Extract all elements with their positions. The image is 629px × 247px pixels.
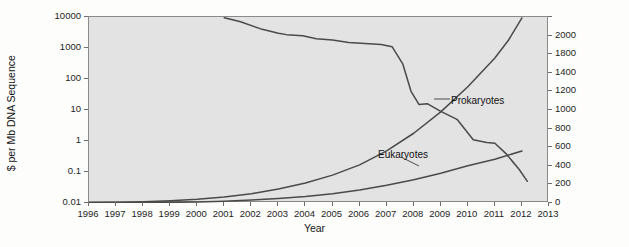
x-axis-tick-label: 1996	[73, 209, 103, 219]
x-axis-tick-label: 2013	[533, 209, 563, 219]
plot-svg	[89, 17, 549, 203]
x-axis-tick	[277, 202, 278, 206]
x-axis-title: Year	[0, 223, 629, 234]
y-axis-right-tick	[548, 128, 552, 129]
y-axis-right-tick-label: 200	[555, 178, 571, 188]
x-axis-tick-label: 2001	[208, 209, 238, 219]
y-axis-left-tick	[84, 140, 88, 141]
x-axis-tick-label: 1999	[154, 209, 184, 219]
x-axis-tick-label: 2012	[506, 209, 536, 219]
y-axis-right-tick-label: 1400	[555, 67, 576, 77]
y-axis-left-tick-label: 100	[26, 73, 81, 83]
y-axis-left-tick	[84, 16, 88, 17]
y-axis-left-tick	[84, 171, 88, 172]
y-axis-right-tick	[548, 35, 552, 36]
y-axis-left-tick-label: 0.1	[26, 166, 81, 176]
x-axis-tick	[169, 202, 170, 206]
y-axis-left-tick-label: 10000	[26, 11, 81, 21]
x-axis-tick-label: 1997	[100, 209, 130, 219]
x-axis-tick	[521, 202, 522, 206]
y-axis-right-tick	[548, 183, 552, 184]
y-axis-right-tick	[548, 53, 552, 54]
x-axis-tick-label: 2009	[425, 209, 455, 219]
x-axis-tick	[548, 202, 549, 206]
x-axis-tick-label: 2007	[371, 209, 401, 219]
y-axis-left-tick-label: 10	[26, 104, 81, 114]
x-axis-tick-label: 2000	[181, 209, 211, 219]
x-axis-tick-label: 2003	[262, 209, 292, 219]
y-axis-left-tick-label: 1	[26, 135, 81, 145]
x-axis-tick	[304, 202, 305, 206]
x-axis-tick	[142, 202, 143, 206]
x-axis-tick-label: 2010	[452, 209, 482, 219]
y-axis-right-tick-label: 800	[555, 123, 571, 133]
x-axis-tick-label: 2002	[235, 209, 265, 219]
y-axis-right-tick-label: 400	[555, 160, 571, 170]
y-axis-right-tick-label: 600	[555, 141, 571, 151]
x-axis-tick-label: 2011	[479, 209, 509, 219]
x-axis-tick	[440, 202, 441, 206]
y-axis-right-tick	[548, 90, 552, 91]
x-axis-tick	[88, 202, 89, 206]
y-axis-right-tick	[548, 146, 552, 147]
x-axis-tick	[115, 202, 116, 206]
x-axis-tick	[250, 202, 251, 206]
x-axis-tick	[196, 202, 197, 206]
x-axis-tick-label: 2005	[317, 209, 347, 219]
x-axis-tick-label: 2004	[289, 209, 319, 219]
series-annotation-eukaryotes: Eukaryotes	[378, 150, 428, 160]
y-axis-left-tick	[84, 109, 88, 110]
y-axis-right-tick-label: 2000	[555, 30, 576, 40]
chart-figure: 0.010.1110100100010000 02004006008001000…	[0, 0, 629, 247]
y-axis-right-tick-label: 0	[555, 197, 560, 207]
y-axis-left-tick	[84, 78, 88, 79]
x-axis-tick-label: 1998	[127, 209, 157, 219]
series-layer	[89, 18, 527, 203]
x-axis-tick	[223, 202, 224, 206]
y-axis-left-title: $ per Mb DNA Sequence	[6, 38, 17, 188]
x-axis-tick-label: 2008	[398, 209, 428, 219]
y-axis-right-tick	[548, 16, 552, 17]
x-axis-tick	[386, 202, 387, 206]
y-axis-right-tick-label: 1200	[555, 85, 576, 95]
y-axis-left-tick	[84, 47, 88, 48]
y-axis-right-tick	[548, 165, 552, 166]
y-axis-right-tick-label: 1800	[555, 48, 576, 58]
y-axis-left-tick-label: 0.01	[26, 197, 81, 207]
x-axis-tick	[467, 202, 468, 206]
y-axis-left-tick-label: 1000	[26, 42, 81, 52]
x-axis-tick	[359, 202, 360, 206]
series-line-eukaryotes	[89, 151, 522, 203]
y-axis-right-tick	[548, 72, 552, 73]
series-line-prokaryotes	[89, 18, 522, 203]
plot-area	[88, 16, 548, 202]
x-axis-tick-label: 2006	[344, 209, 374, 219]
x-axis-tick	[494, 202, 495, 206]
x-axis-tick	[332, 202, 333, 206]
y-axis-right-tick-label: 1000	[555, 104, 576, 114]
x-axis-tick	[413, 202, 414, 206]
series-annotation-prokaryotes: Prokaryotes	[451, 96, 504, 106]
y-axis-right-tick	[548, 109, 552, 110]
